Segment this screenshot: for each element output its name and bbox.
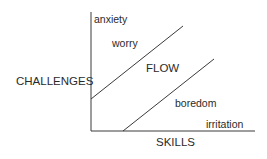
region-label-anxiety: anxiety [94, 14, 127, 25]
region-label-irritation: irritation [206, 119, 243, 130]
x-axis-label: SKILLS [156, 137, 195, 149]
y-axis-label: CHALLENGES [16, 76, 93, 88]
region-label-flow: FLOW [146, 63, 179, 75]
flow-diagram: anxiety worry FLOW boredom irritation CH… [0, 0, 267, 159]
region-label-boredom: boredom [175, 98, 216, 109]
region-label-worry: worry [112, 38, 138, 49]
